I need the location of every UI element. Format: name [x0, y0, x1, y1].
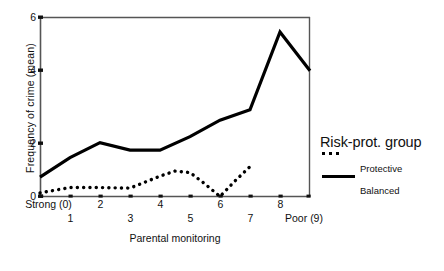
- x-tick-label-strong-0: Strong (0): [25, 199, 72, 210]
- legend-label-balanced: Balanced: [360, 185, 400, 196]
- x-tick-label-3: 3: [128, 213, 134, 224]
- x-tick-label-poor-9: Poor (9): [285, 213, 323, 224]
- legend-title: Risk-prot. group: [320, 134, 422, 150]
- x-tick-label-7: 7: [248, 213, 254, 224]
- x-tick-label-2: 2: [98, 199, 104, 210]
- legend-label-protective: Protective: [360, 163, 402, 174]
- series-line-protective: [40, 167, 250, 197]
- legend-swatch-balanced: [322, 175, 355, 178]
- legend-swatch-protective: [322, 152, 339, 155]
- x-tick-label-6: 6: [218, 199, 224, 210]
- x-tick-label-5: 5: [188, 213, 194, 224]
- chart-figure: Frequency of crime (mean) 6 4 2 0: [0, 0, 444, 271]
- x-tick-label-1: 1: [68, 213, 74, 224]
- x-tick-label-4: 4: [158, 199, 164, 210]
- x-axis-title: Parental monitoring: [129, 232, 220, 244]
- series-line-balanced: [40, 32, 310, 177]
- x-tick-label-8: 8: [278, 199, 284, 210]
